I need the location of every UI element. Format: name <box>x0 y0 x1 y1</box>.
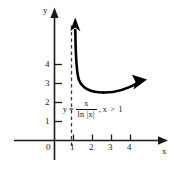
y-axis-ticks <box>55 65 63 122</box>
equation-lhs: y <box>63 106 67 114</box>
y-tick-label-3: 3 <box>45 79 50 88</box>
function-curve <box>70 18 147 93</box>
equation-annotation: y = x ln |x| , x > 1 <box>63 100 123 119</box>
x-tick-label-2: 2 <box>89 143 94 152</box>
origin-label: 0 <box>46 143 51 152</box>
equation-equals: = <box>69 106 74 114</box>
x-axis-ticks <box>74 135 131 141</box>
x-axis-label: x <box>162 147 167 156</box>
equation-comma: , <box>99 106 101 114</box>
y-tick-label-4: 4 <box>45 60 50 69</box>
x-tick-label-4: 4 <box>127 143 132 152</box>
y-tick-label-1: 1 <box>45 117 50 126</box>
y-tick-label-2: 2 <box>45 98 50 107</box>
graph-figure: y x 0 1 2 3 4 1 2 3 4 y = x ln |x| , x >… <box>0 0 175 172</box>
equation-denominator: ln |x| <box>76 110 97 119</box>
plot-canvas <box>0 0 175 172</box>
equation-fraction: x ln |x| <box>76 100 97 119</box>
y-axis-label: y <box>43 6 48 15</box>
curve-arrow-right <box>132 75 147 90</box>
x-tick-label-3: 3 <box>108 143 113 152</box>
equation-condition: x > 1 <box>103 106 124 114</box>
x-tick-label-1: 1 <box>70 143 75 152</box>
equation-numerator: x <box>81 100 91 109</box>
